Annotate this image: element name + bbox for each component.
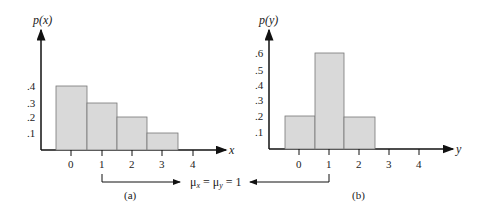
- y-tick-label: .4: [27, 80, 36, 92]
- arrow-right: [250, 174, 329, 182]
- x-tick-label: 2: [356, 158, 362, 170]
- mean-equation: μx = μy = 1: [190, 175, 242, 190]
- x-tick-label: 3: [386, 158, 392, 170]
- x-axis-title-b: y: [455, 142, 462, 156]
- x-tick-label: 2: [129, 158, 135, 170]
- bar-b-1: [315, 53, 344, 149]
- bar-b-0: [285, 116, 315, 149]
- y-tick-label: .2: [255, 110, 263, 122]
- caption-b: (b): [352, 189, 365, 202]
- chart-a: p(x) x .1 .2 .3 .4 0 1 2 3 4 (a: [27, 13, 235, 202]
- figure: p(x) x .1 .2 .3 .4 0 1 2 3 4 (a: [0, 0, 480, 212]
- y-tick-label: .1: [27, 127, 35, 139]
- y-tick-label: .3: [255, 94, 264, 106]
- bar-a-1: [87, 103, 117, 150]
- bars-b: [285, 53, 375, 149]
- bars-a: [56, 86, 178, 150]
- y-tick-label: .1: [255, 126, 263, 138]
- y-tick-label: .2: [27, 111, 35, 123]
- y-tick-label: .3: [27, 97, 36, 109]
- y-axis-title-a: p(x): [32, 13, 52, 27]
- x-tick-label: 0: [68, 158, 74, 170]
- bar-b-2: [344, 117, 375, 149]
- chart-b: p(y) y .1 .2 .3 .4 .5 .6 0 1 2 3 4: [255, 13, 462, 202]
- bar-a-0: [56, 86, 87, 150]
- mean-annotation: μx = μy = 1: [102, 174, 329, 190]
- caption-a: (a): [124, 189, 137, 202]
- x-tick-label: 4: [416, 158, 422, 170]
- y-axis-title-b: p(y): [258, 13, 278, 27]
- bar-a-2: [117, 117, 147, 150]
- y-ticks-b: .1 .2 .3 .4 .5 .6: [255, 47, 264, 138]
- x-ticks-b: 0 1 2 3 4: [296, 149, 422, 170]
- x-tick-label: 3: [159, 158, 165, 170]
- x-ticks-a: 0 1 2 3 4: [68, 150, 196, 170]
- x-tick-label: 4: [190, 158, 196, 170]
- y-tick-label: .6: [255, 47, 264, 59]
- arrow-left: [102, 174, 180, 182]
- y-ticks-a: .1 .2 .3 .4: [27, 80, 36, 139]
- x-axis-title-a: x: [228, 143, 235, 157]
- y-tick-label: .5: [255, 64, 264, 76]
- y-tick-label: .4: [255, 79, 264, 91]
- x-tick-label: 0: [296, 158, 302, 170]
- bar-a-3: [147, 133, 178, 150]
- x-tick-label: 1: [326, 158, 332, 170]
- x-tick-label: 1: [99, 158, 105, 170]
